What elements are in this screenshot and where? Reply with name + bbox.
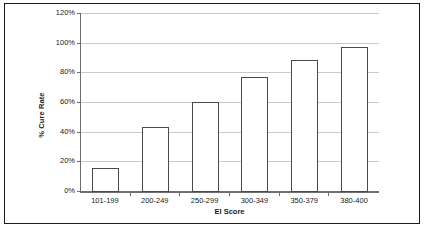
chart-figure-frame: % Cure Rate 0%20%40%60%80%100%120% 101-1… — [4, 3, 420, 224]
x-axis-tick-label: 200-249 — [130, 196, 180, 205]
bar[interactable] — [92, 168, 119, 192]
y-axis-tick-label: 0% — [64, 187, 75, 195]
x-axis-tick-label: 350-379 — [279, 196, 329, 205]
y-axis-tick-label: 40% — [60, 128, 75, 136]
bar[interactable] — [142, 127, 169, 192]
bar-series — [81, 14, 379, 192]
bar-slot — [230, 14, 280, 192]
bar[interactable] — [241, 77, 268, 192]
bar-slot — [131, 14, 181, 192]
y-axis-tick-label: 20% — [60, 158, 75, 166]
y-axis-tick-label: 60% — [60, 98, 75, 106]
x-axis-tick-label: 300-349 — [229, 196, 279, 205]
bar[interactable] — [192, 102, 219, 192]
bar-chart: % Cure Rate 0%20%40%60%80%100%120% 101-1… — [5, 4, 421, 225]
y-axis-tick-label: 100% — [56, 39, 75, 47]
bar[interactable] — [291, 60, 318, 192]
x-axis-tick-label: 250-299 — [180, 196, 230, 205]
x-axis-tick-label: 101-199 — [80, 196, 130, 205]
x-axis-title: EI Score — [80, 207, 379, 216]
plot-area: 0%20%40%60%80%100%120% — [80, 14, 379, 193]
bar-slot — [329, 14, 379, 192]
y-axis-tick-label: 120% — [56, 9, 75, 17]
bar[interactable] — [341, 47, 368, 192]
x-axis-tick-label: 380-400 — [329, 196, 379, 205]
bar-slot — [280, 14, 330, 192]
bar-slot — [180, 14, 230, 192]
y-axis-title: % Cure Rate — [37, 92, 46, 137]
bar-slot — [81, 14, 131, 192]
x-axis-tick-labels: 101-199200-249250-299300-349350-379380-4… — [80, 196, 379, 205]
y-axis-tick-label: 80% — [60, 69, 75, 77]
